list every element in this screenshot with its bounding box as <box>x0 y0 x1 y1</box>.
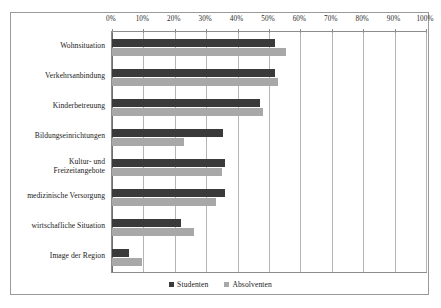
bar-absolventen <box>112 228 194 236</box>
legend-swatch-icon <box>169 282 174 287</box>
category-label-row: Kultur- und Freizeitangebote <box>11 151 105 181</box>
bar-studenten <box>112 249 129 257</box>
x-axis-tick-label: 0% <box>106 15 116 23</box>
category-label-row: medizinische Versorgung <box>11 181 105 211</box>
category-axis-labels: WohnsituationVerkehrsanbindungKinderbetr… <box>11 31 111 271</box>
bar-absolventen <box>112 258 142 266</box>
bar-studenten <box>112 189 225 197</box>
category-label: wirtschafliche Situation <box>31 221 105 230</box>
chart-frame: 0%10%20%30%40%50%60%70%80%90%100% Wohnsi… <box>10 12 429 295</box>
x-axis-tick-label: 80% <box>355 15 368 23</box>
x-axis-tick-label: 40% <box>230 15 243 23</box>
bar-absolventen <box>112 168 222 176</box>
bar-studenten <box>112 219 181 227</box>
category-label-row: Verkehrsanbindung <box>11 61 105 91</box>
bar-studenten <box>112 129 223 137</box>
legend-swatch-icon <box>224 282 229 287</box>
category-label: Verkehrsanbindung <box>45 71 105 80</box>
legend-label: Studenten <box>177 280 208 289</box>
x-axis-tick-label: 50% <box>261 15 274 23</box>
chart-legend: StudentenAbsolventen <box>11 275 430 293</box>
category-label-row: wirtschafliche Situation <box>11 211 105 241</box>
x-axis-tick-label: 100% <box>416 15 433 23</box>
bars-layer <box>112 32 426 272</box>
bar-studenten <box>112 69 275 77</box>
category-label: Wohnsituation <box>60 41 105 50</box>
x-axis-tick-label: 20% <box>167 15 180 23</box>
category-label: Bildungseinrichtungen <box>35 131 105 140</box>
x-axis-tick-label: 90% <box>387 15 400 23</box>
category-label: Kinderbetreuung <box>53 101 105 110</box>
bar-studenten <box>112 39 275 47</box>
category-label-row: Image der Region <box>11 241 105 271</box>
bar-studenten <box>112 159 225 167</box>
bar-absolventen <box>112 48 286 56</box>
category-label: medizinische Versorgung <box>27 191 105 200</box>
x-axis-tick-label: 10% <box>136 15 149 23</box>
legend-entry: Studenten <box>169 280 208 289</box>
bar-studenten <box>112 99 260 107</box>
bar-absolventen <box>112 138 184 146</box>
category-label-row: Kinderbetreuung <box>11 91 105 121</box>
plot-area <box>111 31 427 273</box>
gridline <box>426 32 427 272</box>
x-axis-tick-label: 30% <box>198 15 211 23</box>
bar-absolventen <box>112 198 216 206</box>
legend-entry: Absolventen <box>224 280 271 289</box>
x-axis-tickmark <box>426 29 427 33</box>
category-label: Image der Region <box>50 251 105 260</box>
category-label-row: Bildungseinrichtungen <box>11 121 105 151</box>
x-axis-tick-label: 70% <box>324 15 337 23</box>
category-label: Kultur- und Freizeitangebote <box>54 157 105 176</box>
bar-absolventen <box>112 78 278 86</box>
x-axis-label-strip: 0%10%20%30%40%50%60%70%80%90%100% <box>11 13 430 29</box>
x-axis-tick-label: 60% <box>293 15 306 23</box>
bar-absolventen <box>112 108 263 116</box>
legend-label: Absolventen <box>232 280 271 289</box>
category-label-row: Wohnsituation <box>11 31 105 61</box>
